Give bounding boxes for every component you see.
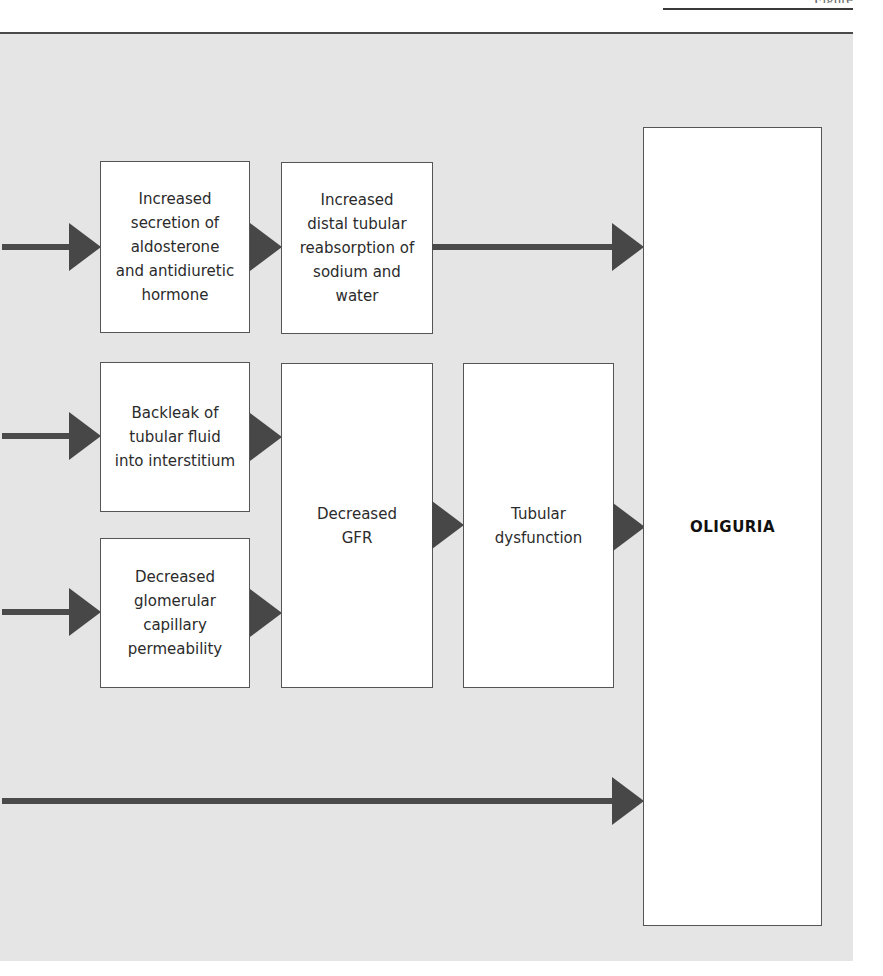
node-text-line: glomerular (128, 589, 222, 613)
node-text-line: Decreased (128, 565, 222, 589)
node-glomerular-permeability: Decreased glomerular capillary permeabil… (100, 538, 250, 688)
node-decreased-gfr: Decreased GFR (281, 363, 433, 688)
node-distal-reabsorption: Increased distal tubular reabsorption of… (281, 162, 433, 334)
node-text-line: Tubular (495, 502, 583, 526)
node-text-line: Decreased (317, 502, 397, 526)
running-head: Figure (663, 0, 853, 3)
header-underline (663, 8, 853, 10)
node-text-line: Increased (116, 187, 234, 211)
node-text-line: capillary (128, 613, 222, 637)
node-oliguria: OLIGURIA (643, 127, 822, 926)
arrowhead-icon (613, 503, 645, 551)
node-text-line: aldosterone (116, 235, 234, 259)
arrowhead-icon (250, 413, 282, 461)
node-text-line: permeability (128, 637, 222, 661)
arrow-line-distal-to-oliguria (432, 244, 616, 250)
arrowhead-icon (69, 223, 101, 271)
node-text-line: secretion of (116, 211, 234, 235)
node-text-line: hormone (116, 283, 234, 307)
arrowhead-icon (69, 588, 101, 636)
node-text-line: distal tubular (300, 212, 414, 236)
node-text-line: water (300, 284, 414, 308)
node-text-line: OLIGURIA (690, 515, 775, 539)
node-tubular-dysfunction: Tubular dysfunction (463, 363, 614, 688)
arrowhead-icon (432, 501, 464, 549)
arrow-line-in-backleak (2, 433, 72, 439)
arrowhead-icon (250, 589, 282, 637)
node-text-line: and antidiuretic (116, 259, 234, 283)
arrowhead-icon (612, 223, 644, 271)
node-text-line: into interstitium (115, 449, 235, 473)
node-aldosterone-adh: Increased secretion of aldosterone and a… (100, 161, 250, 333)
arrowhead-icon (250, 223, 282, 271)
node-text-line: tubular fluid (115, 425, 235, 449)
node-text-line: GFR (317, 526, 397, 550)
node-backleak: Backleak of tubular fluid into interstit… (100, 362, 250, 512)
arrowhead-icon (69, 412, 101, 460)
node-text-line: dysfunction (495, 526, 583, 550)
arrow-line-in-glomerular (2, 609, 72, 615)
node-text-line: Backleak of (115, 401, 235, 425)
arrowhead-icon (612, 777, 644, 825)
arrow-line-bottom-to-oliguria (2, 798, 616, 804)
arrow-line-in-aldosterone (2, 244, 72, 250)
node-text-line: Increased (300, 188, 414, 212)
node-text-line: sodium and (300, 260, 414, 284)
node-text-line: reabsorption of (300, 236, 414, 260)
